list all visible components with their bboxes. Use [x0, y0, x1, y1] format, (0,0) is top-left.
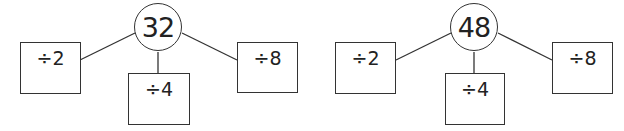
answer-box-divide-8[interactable]: ÷8 [237, 42, 298, 93]
answer-box-divide-2[interactable]: ÷2 [335, 42, 396, 94]
connector-right-2 [498, 33, 552, 60]
connector-left-1 [80, 33, 135, 60]
operation-label: ÷2 [36, 47, 64, 93]
answer-box-divide-8[interactable]: ÷8 [552, 42, 613, 94]
root-number-circle: 32 [134, 3, 182, 51]
connector-left-2 [396, 33, 451, 60]
root-number-circle: 48 [450, 3, 498, 51]
root-number: 48 [458, 12, 490, 43]
operation-label: ÷4 [461, 78, 489, 124]
connector-lines [0, 0, 624, 131]
root-number: 32 [142, 12, 174, 43]
answer-box-divide-4[interactable]: ÷4 [128, 73, 190, 125]
answer-box-divide-2[interactable]: ÷2 [20, 42, 81, 94]
operation-label: ÷8 [253, 47, 281, 92]
answer-box-divide-4[interactable]: ÷4 [445, 73, 505, 125]
operation-label: ÷8 [568, 47, 596, 93]
operation-label: ÷2 [351, 47, 379, 93]
connector-right-1 [182, 33, 237, 60]
operation-label: ÷4 [145, 78, 173, 124]
